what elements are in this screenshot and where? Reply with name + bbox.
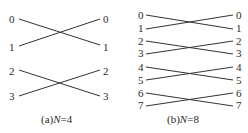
left-label: 0 [138,9,144,21]
left-label: 1 [9,41,15,53]
left-label: 2 [9,65,15,77]
right-label: 3 [103,90,109,102]
right-label: 6 [236,87,242,99]
right-label: 3 [236,47,242,59]
left-label: 0 [9,13,15,25]
left-label: 5 [138,74,144,86]
right-label: 4 [236,61,242,73]
left-label: 3 [138,47,144,59]
caption-a: (a)N=4 [41,113,73,126]
left-label: 6 [138,87,144,99]
right-label: 1 [103,41,109,53]
left-label: 7 [138,99,144,111]
right-label: 7 [236,99,242,111]
left-label: 1 [138,22,144,34]
caption-b: (b)N=8 [167,113,199,126]
diagram-a: 0 1 2 3 0 1 2 3 (a)N=4 [9,13,109,126]
left-label: 4 [138,61,144,73]
diagram-b: 0 1 2 3 4 5 6 7 0 1 2 3 4 5 6 7 (b)N=8 [138,9,242,126]
right-label: 2 [103,65,109,77]
butterfly-diagrams: 0 1 2 3 0 1 2 3 (a)N=4 0 1 2 3 4 5 6 7 0… [0,0,248,133]
left-label: 2 [138,35,144,47]
right-label: 1 [236,22,242,34]
right-label: 0 [236,9,242,21]
right-label: 5 [236,74,242,86]
left-label: 3 [9,90,15,102]
right-label: 2 [236,35,242,47]
right-label: 0 [103,13,109,25]
